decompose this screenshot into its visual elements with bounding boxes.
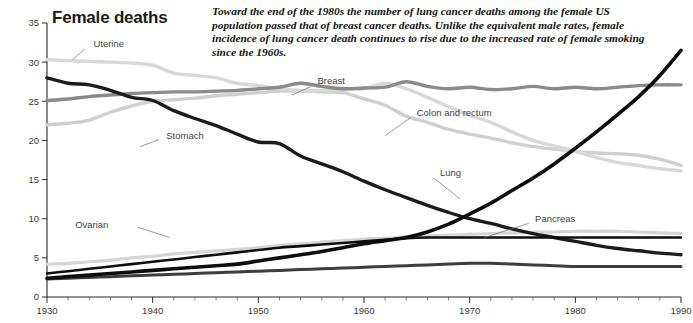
series-labels-group: UterineBreastStomachColon and rectumLung… [72,38,575,238]
y-tick-label: 15 [28,174,39,185]
leader-line-colon-and-rectum [385,118,410,136]
x-tick-label: 1980 [565,305,586,316]
y-tick-label: 25 [28,96,39,107]
series-label-breast: Breast [317,75,345,86]
y-tick-label: 10 [28,213,39,224]
x-tick-label: 1970 [459,305,480,316]
y-tick-label: 20 [28,135,39,146]
series-label-uterine: Uterine [93,38,124,49]
series-label-pancreas: Pancreas [535,213,575,224]
x-tick-label: 1950 [248,305,269,316]
leader-line-uterine [72,49,85,60]
series-label-ovarian: Ovarian [75,219,108,230]
leader-line-lung [434,178,461,199]
y-tick-label: 5 [34,252,39,263]
leader-line-ovarian [138,227,170,237]
x-tick-label: 1960 [353,305,374,316]
series-label-colon-and-rectum: Colon and rectum [417,107,492,118]
line-chart-plot: 0510152025303519301940195019601970198019… [0,0,693,323]
data-series-group [47,50,681,279]
x-tick-label: 1940 [142,305,163,316]
y-tick-label: 0 [34,291,39,302]
x-tick-label: 1930 [36,305,57,316]
chart-container: Female deaths Toward the end of the 1980… [0,0,693,323]
series-label-stomach: Stomach [166,130,204,141]
y-tick-label: 30 [28,57,39,68]
series-label-lung: Lung [440,167,461,178]
series-line-uterine [47,60,681,171]
leader-line-stomach [140,140,159,147]
series-line-ovarian [47,231,681,264]
x-tick-label: 1990 [670,305,691,316]
y-tick-label: 35 [28,17,39,28]
